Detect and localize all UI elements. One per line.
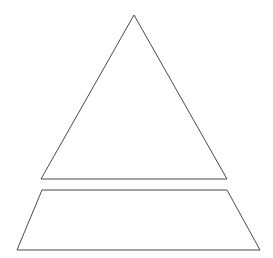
- pyramid-diagram-svg: [0, 0, 273, 258]
- diagram-canvas: [0, 0, 273, 258]
- canvas-background: [0, 0, 273, 258]
